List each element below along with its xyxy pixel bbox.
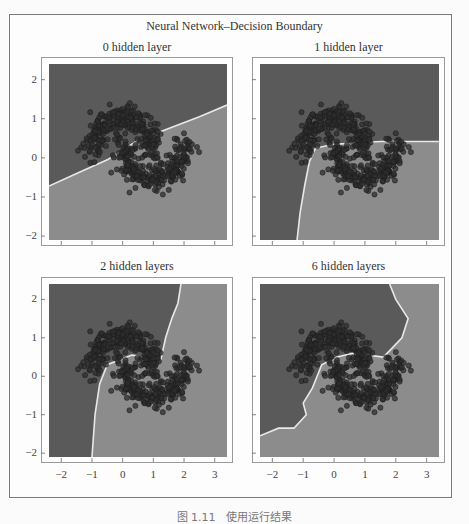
x-tick-label: −2 — [262, 468, 282, 480]
figure-caption: 图 1.11 使用运行结果 — [0, 508, 469, 524]
x-tick-label: 3 — [417, 468, 437, 480]
x-tick-label: −2 — [51, 468, 71, 480]
x-tick-label: 1 — [355, 468, 375, 480]
subplot-title: 1 hidden layer — [252, 40, 445, 55]
y-tick-label: 2 — [19, 292, 37, 304]
y-tick-label: 1 — [19, 331, 37, 343]
x-tick-label: 1 — [143, 468, 163, 480]
y-tick-label: −1 — [19, 408, 37, 420]
subplot-title: 6 hidden layers — [252, 259, 445, 274]
x-tick-label: 0 — [113, 468, 133, 480]
y-tick-label: 2 — [19, 73, 37, 85]
subplot-title: 0 hidden layer — [41, 40, 233, 55]
x-tick-label: 2 — [174, 468, 194, 480]
y-tick-label: −2 — [19, 229, 37, 241]
axis-ticks — [36, 277, 236, 469]
y-tick-label: 0 — [19, 151, 37, 163]
y-tick-label: −2 — [19, 446, 37, 458]
axis-ticks — [247, 57, 448, 252]
axis-ticks — [36, 57, 236, 252]
subplot-title: 2 hidden layers — [41, 259, 233, 274]
figure-title: Neural Network–Decision Boundary — [0, 19, 469, 34]
x-tick-label: −1 — [82, 468, 102, 480]
y-tick-label: 0 — [19, 369, 37, 381]
y-tick-label: −1 — [19, 190, 37, 202]
x-tick-label: 2 — [386, 468, 406, 480]
x-tick-label: −1 — [293, 468, 313, 480]
x-tick-label: 0 — [324, 468, 344, 480]
y-tick-label: 1 — [19, 112, 37, 124]
axis-ticks — [247, 277, 448, 469]
x-tick-label: 3 — [205, 468, 225, 480]
